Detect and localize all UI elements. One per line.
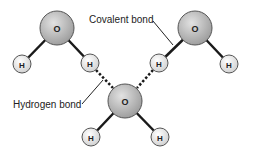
hydrogen-label: H (157, 134, 163, 143)
hydrogen-label: H (226, 61, 232, 70)
covalent-leader-line (153, 21, 173, 45)
hydrogen-label: H (87, 60, 93, 69)
oxygen-label: O (121, 97, 128, 107)
oxygen-label: O (191, 24, 198, 34)
oxygen-label: O (53, 24, 60, 34)
hydrogen-leader-line (82, 80, 103, 104)
covalent-bond-label: Covalent bond (89, 14, 154, 25)
hydrogen-label: H (156, 60, 162, 69)
hydrogen-label: H (88, 134, 94, 143)
hydrogen-label: H (19, 61, 25, 70)
hydrogen-bond-label: Hydrogen bond (13, 99, 81, 110)
hydrogen-bond-dashed (137, 70, 153, 88)
water-hydrogen-bond-diagram: O O O H H H H H H Covalent bond Hydrogen… (0, 0, 253, 160)
